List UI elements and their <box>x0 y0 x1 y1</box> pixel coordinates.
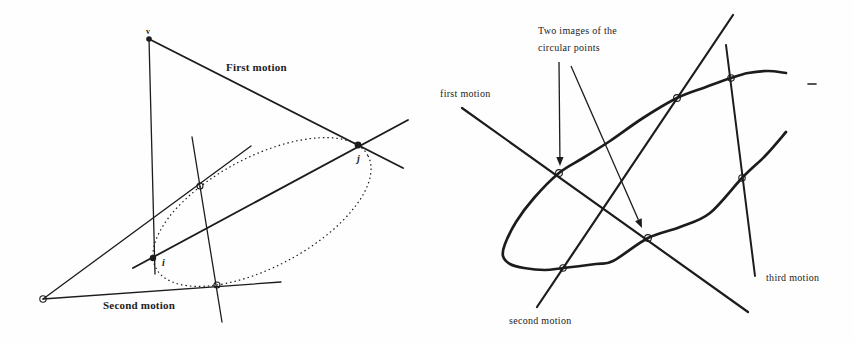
point-i-label: i <box>162 257 165 268</box>
first-motion-line <box>149 39 403 168</box>
upper-tangent-line <box>43 146 251 299</box>
second-motion-line <box>43 282 281 299</box>
second-motion-label: second motion <box>509 315 572 326</box>
annotation-line-1: Two images of the <box>538 25 617 36</box>
third-motion-line <box>726 45 755 276</box>
left-figure: vFirst motionSecond motionij <box>40 27 408 322</box>
arrow-to-first-circular-point <box>556 62 563 166</box>
second-motion-line <box>537 15 733 307</box>
annotation-line-2: circular points <box>538 42 600 53</box>
right-figure: Two images of thecircular pointsfirst mo… <box>440 15 819 326</box>
first-motion-label: First motion <box>226 61 287 73</box>
i-j-diagonal-line <box>133 120 408 268</box>
bold-conic-arc <box>503 71 786 270</box>
vertex-v-label: v <box>146 27 150 36</box>
dotted-conic <box>130 107 394 317</box>
scanned-paper-figure: vFirst motionSecond motionijTwo images o… <box>0 0 854 342</box>
third-motion-label: third motion <box>766 272 819 283</box>
vertical-axis-line <box>149 39 155 274</box>
vertex-v-point <box>146 36 152 42</box>
arrow-to-first-circular-point-shaft <box>559 62 560 157</box>
circular-point-i <box>150 255 156 261</box>
second-motion-label: Second motion <box>103 299 175 311</box>
first-motion-label: first motion <box>440 88 491 99</box>
arrow-to-second-circular-point-shaft <box>571 66 638 220</box>
first-motion-line <box>462 108 748 312</box>
arrow-to-second-circular-point-head <box>635 218 642 228</box>
diagram-canvas: vFirst motionSecond motionijTwo images o… <box>0 0 854 342</box>
arrow-to-first-circular-point-head <box>556 157 563 166</box>
tangency-chord-line <box>192 137 222 322</box>
circular-point-j <box>355 142 362 149</box>
point-j-label: j <box>355 153 360 164</box>
